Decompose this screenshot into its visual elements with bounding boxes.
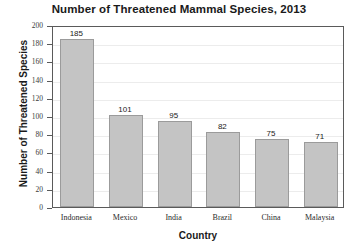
y-tick-label: 20 [10,186,43,194]
y-tick-label: 40 [10,168,43,176]
gridline [53,82,343,83]
bar-value-label: 71 [295,132,344,141]
y-tick-label: 120 [10,95,43,103]
bar [304,142,338,207]
bar-value-label: 82 [198,122,247,131]
y-tick-label: 100 [10,113,43,121]
plot-area [52,26,344,208]
bar-value-label: 101 [101,105,150,114]
y-tick-label: 60 [10,149,43,157]
y-tick-label: 200 [10,22,43,30]
gridline [53,173,343,174]
gridline [53,154,343,155]
bar [109,115,143,207]
chart-title: Number of Threatened Mammal Species, 201… [0,3,358,15]
y-tick-label: 80 [10,131,43,139]
x-axis-title: Country [52,230,344,241]
gridline [53,63,343,64]
bar-value-label: 185 [52,29,101,38]
y-tick-label: 0 [10,204,43,212]
y-tick-label: 180 [10,40,43,48]
y-tick-label: 160 [10,58,43,66]
category-label: Malaysia [289,213,350,222]
bar [60,39,94,207]
bar-value-label: 75 [247,129,296,138]
gridline [53,100,343,101]
bar [255,139,289,207]
y-tick-label: 140 [10,77,43,85]
y-tick-mark [47,208,52,209]
gridline [53,118,343,119]
gridline [53,45,343,46]
gridline [53,191,343,192]
bar [206,132,240,207]
bar-value-label: 95 [149,111,198,120]
bar [158,121,192,207]
